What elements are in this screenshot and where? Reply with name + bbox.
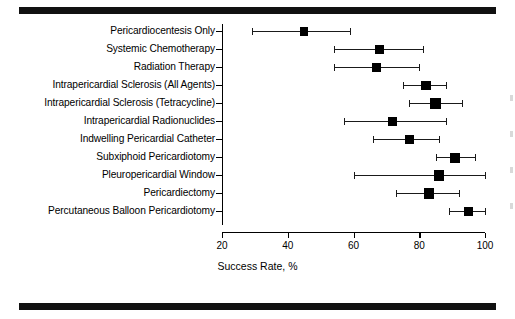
page-edge-mark (510, 167, 513, 173)
data-point-marker (388, 117, 397, 126)
x-axis-tick-label: 20 (202, 240, 242, 251)
error-bar-cap-high (485, 172, 486, 179)
error-bar-cap-high (446, 118, 447, 125)
page-edge-mark (510, 131, 513, 137)
page-edge-mark (510, 203, 513, 209)
error-bar-line (354, 175, 486, 176)
y-axis-tick (216, 85, 222, 86)
category-label: Intrapericardial Radionuclides (0, 115, 215, 126)
error-bar-cap-low (334, 64, 335, 71)
error-bar-cap-low (449, 208, 450, 215)
error-bar-cap-high (485, 208, 486, 215)
x-axis-tick-label: 100 (465, 240, 505, 251)
error-bar-cap-low (354, 172, 355, 179)
category-label: Pleuropericardial Window (0, 169, 215, 180)
bottom-rule (19, 303, 496, 310)
y-axis-tick (216, 139, 222, 140)
data-point-marker (375, 45, 384, 54)
category-label: Indwelling Pericardial Catheter (0, 133, 215, 144)
error-bar-cap-high (419, 64, 420, 71)
y-axis-tick (216, 211, 222, 212)
category-label: Intrapericardial Sclerosis (Tetracycline… (0, 97, 215, 108)
error-bar-cap-low (334, 46, 335, 53)
category-label: Percutaneous Balloon Pericardiotomy (0, 205, 215, 216)
data-point-marker (405, 135, 415, 145)
y-axis-tick (216, 175, 222, 176)
y-axis-tick (216, 49, 222, 50)
top-rule (19, 7, 496, 14)
x-axis-tick (222, 233, 223, 238)
data-point-marker (372, 63, 381, 72)
figure-container: Pericardiocentesis OnlySystemic Chemothe… (0, 0, 515, 319)
x-axis-tick (485, 233, 486, 238)
error-bar-cap-low (409, 100, 410, 107)
error-bar-cap-high (423, 46, 424, 53)
page-edge-mark (510, 95, 513, 101)
error-bar-cap-low (436, 154, 437, 161)
data-point-marker (300, 27, 309, 36)
data-point-marker (430, 98, 441, 109)
error-bar-cap-high (446, 82, 447, 89)
y-axis-tick (216, 31, 222, 32)
data-point-marker (424, 188, 435, 199)
data-point-marker (464, 207, 474, 217)
category-label: Radiation Therapy (0, 61, 215, 72)
x-axis-tick (419, 233, 420, 238)
error-bar-cap-high (439, 136, 440, 143)
error-bar-cap-low (396, 190, 397, 197)
error-bar-cap-low (344, 118, 345, 125)
y-axis-tick (216, 157, 222, 158)
x-axis-tick (354, 233, 355, 238)
error-bar-cap-low (373, 136, 374, 143)
category-label: Systemic Chemotherapy (0, 43, 215, 54)
category-label: Pericardiectomy (0, 187, 215, 198)
category-label: Intrapericardial Sclerosis (All Agents) (0, 79, 215, 90)
error-bar-cap-low (252, 28, 253, 35)
data-point-marker (421, 81, 431, 91)
plot-area: Pericardiocentesis OnlySystemic Chemothe… (0, 18, 515, 288)
y-axis-tick (216, 67, 222, 68)
x-axis-tick (288, 233, 289, 238)
y-axis-tick (216, 103, 222, 104)
y-axis-line (222, 24, 223, 225)
data-point-marker (434, 170, 445, 181)
x-axis-tick-label: 40 (268, 240, 308, 251)
error-bar-cap-high (350, 28, 351, 35)
error-bar-cap-low (403, 82, 404, 89)
error-bar-cap-high (459, 190, 460, 197)
error-bar-cap-high (462, 100, 463, 107)
x-axis-tick-label: 60 (334, 240, 374, 251)
x-axis-label: Success Rate, % (0, 260, 515, 272)
error-bar-cap-high (475, 154, 476, 161)
y-axis-tick (216, 121, 222, 122)
category-label: Pericardiocentesis Only (0, 25, 215, 36)
page-edge-marks (507, 95, 513, 245)
data-point-marker (450, 153, 460, 163)
y-axis-tick (216, 193, 222, 194)
x-axis-tick-label: 80 (399, 240, 439, 251)
category-label: Subxiphoid Pericardiotomy (0, 151, 215, 162)
